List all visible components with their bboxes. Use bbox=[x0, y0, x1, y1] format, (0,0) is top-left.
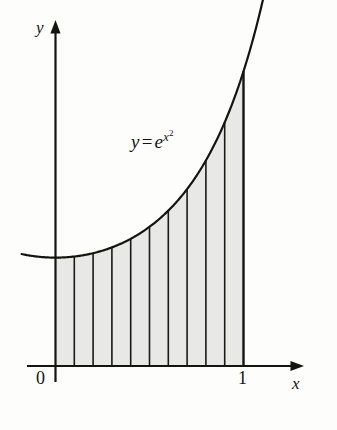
origin-tick-label: 0 bbox=[36, 368, 45, 389]
equation-exponent: x2 bbox=[163, 130, 173, 144]
x-tick-label-1: 1 bbox=[238, 368, 247, 389]
curve-equation-label: y=ex2 bbox=[131, 131, 174, 153]
equation-lhs: y bbox=[131, 131, 140, 152]
equation-exponent-power: 2 bbox=[169, 128, 174, 138]
x-axis-arrowhead-icon bbox=[291, 361, 305, 371]
equation-base: e bbox=[155, 131, 164, 152]
figure-container: y x 0 1 y=ex2 bbox=[0, 0, 337, 430]
y-axis-arrowhead-icon bbox=[50, 20, 60, 34]
x-axis-label: x bbox=[292, 374, 300, 394]
area-under-curve-chart bbox=[0, 0, 337, 430]
y-axis-label: y bbox=[36, 18, 44, 38]
equation-equals-sign: = bbox=[140, 131, 155, 152]
